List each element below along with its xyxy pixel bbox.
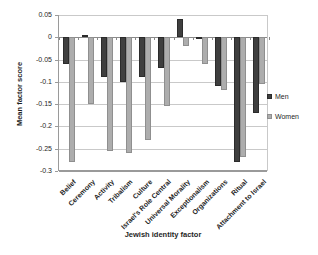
bar-women [88, 37, 94, 104]
legend-item-men: Men [267, 93, 299, 100]
gridline [59, 170, 267, 172]
x-tick-mark [250, 37, 251, 40]
x-tick-mark [231, 37, 232, 40]
y-axis-title: Mean factor score [15, 62, 24, 126]
women-series-marker-icon [267, 114, 272, 119]
bar-women [126, 37, 132, 153]
bar-women [202, 37, 208, 64]
y-tick-mark [55, 104, 58, 105]
legend-item-women: Women [267, 113, 299, 120]
legend-label: Men [275, 93, 289, 100]
x-axis-title: Jewish identity factor [125, 230, 202, 239]
bar-women [221, 37, 227, 90]
y-tick-mark [55, 37, 58, 38]
y-tick-mark [55, 60, 58, 61]
y-tick-label: 0 [0, 33, 52, 41]
x-tick-mark [78, 37, 79, 40]
bar-women [240, 37, 246, 157]
x-category-label: Organizations [191, 178, 229, 216]
chart-frame: Mean factor score BeliefCeremonyActivity… [0, 0, 318, 255]
x-tick-mark [97, 37, 98, 40]
y-tick-label: -0.25 [0, 145, 52, 153]
y-tick-label: -0.05 [0, 56, 52, 64]
men-series-marker-icon [267, 94, 272, 99]
x-tick-mark [116, 37, 117, 40]
y-tick-label: 0.05 [0, 11, 52, 19]
bar-women [69, 37, 75, 162]
y-tick-mark [55, 126, 58, 127]
y-tick-label: -0.2 [0, 122, 52, 130]
x-tick-mark [135, 37, 136, 40]
x-tick-mark [193, 37, 194, 40]
y-tick-mark [55, 171, 58, 172]
y-tick-label: -0.1 [0, 78, 52, 86]
legend-label: Women [275, 113, 299, 120]
bar-women [107, 37, 113, 151]
bar-women [259, 37, 265, 84]
legend: MenWomen [267, 93, 299, 120]
y-tick-label: -0.3 [0, 167, 52, 175]
bar-women [183, 37, 189, 46]
x-tick-mark [269, 37, 270, 40]
y-tick-label: -0.15 [0, 100, 52, 108]
x-tick-mark [174, 37, 175, 40]
y-tick-mark [55, 15, 58, 16]
y-tick-mark [55, 82, 58, 83]
x-tick-mark [59, 37, 60, 40]
y-tick-mark [55, 149, 58, 150]
x-tick-mark [154, 37, 155, 40]
plot-area: BeliefCeremonyActivityTribalismCultureIs… [58, 15, 268, 171]
x-tick-mark [212, 37, 213, 40]
gridline [59, 15, 267, 16]
bar-women [164, 37, 170, 106]
bar-men [177, 19, 183, 37]
bar-women [145, 37, 151, 140]
